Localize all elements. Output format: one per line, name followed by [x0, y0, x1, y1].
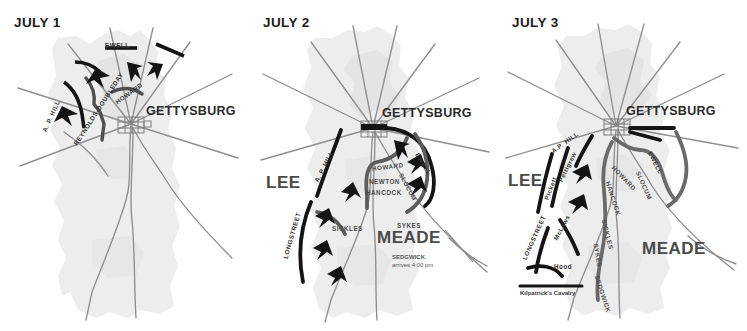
- gettysburg-map-series: JULY 1 GETTYSBURG EWELL A. P. HILL REYNO…: [0, 0, 747, 331]
- army-label-meade: MEADE: [377, 228, 441, 248]
- panel-title-july-3: JULY 3: [512, 15, 559, 30]
- commander-label-hood: Hood: [554, 263, 572, 270]
- map-graphic-july-3: [498, 0, 747, 331]
- note-kilpatricks-cavalry: Kilpatrick's Cavalry: [520, 290, 575, 296]
- town-label-gettysburg: GETTYSBURG: [382, 106, 472, 120]
- army-label-lee: LEE: [508, 171, 543, 191]
- terrain-shading: [48, 30, 180, 318]
- map-panel-july-3: JULY 3 GETTYSBURG LEE MEADE A.P. HILL EW…: [498, 0, 747, 331]
- commander-label-newton: NEWTON: [369, 178, 400, 185]
- commander-label-hancock: HANCOCK: [366, 189, 402, 196]
- town-label-gettysburg: GETTYSBURG: [146, 104, 236, 118]
- note-sedgwick: SEDGWICK arrives 4:00 pm: [392, 253, 433, 269]
- commander-label-ewell: EWELL: [105, 42, 130, 49]
- confederate-town-bar: [361, 124, 387, 130]
- army-label-meade: MEADE: [642, 239, 706, 259]
- note-sedgwick-detail: arrives 4:00 pm: [392, 262, 433, 268]
- map-panel-july-2: JULY 2 GETTYSBURG LEE MEADE A. P. HILL L…: [249, 0, 498, 331]
- town-label-gettysburg: GETTYSBURG: [626, 104, 716, 118]
- panel-title-july-1: JULY 1: [14, 15, 61, 30]
- army-label-lee: LEE: [266, 173, 301, 193]
- commander-label-sickles: SICKLES: [332, 225, 363, 232]
- note-sedgwick-name: SEDGWICK: [392, 254, 425, 260]
- map-panel-july-1: JULY 1 GETTYSBURG EWELL A. P. HILL REYNO…: [0, 0, 249, 331]
- map-graphic-july-1: [0, 0, 249, 331]
- commander-label-sykes: SYKES: [397, 222, 421, 229]
- panel-title-july-2: JULY 2: [263, 15, 310, 30]
- sedgwick-approach-line: [445, 230, 473, 262]
